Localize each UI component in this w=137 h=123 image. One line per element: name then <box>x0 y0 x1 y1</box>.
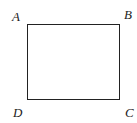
vertex-label-d: D <box>13 106 22 119</box>
vertex-label-b: B <box>124 8 132 21</box>
rectangle-abcd <box>27 24 120 100</box>
vertex-label-c: C <box>125 106 134 119</box>
vertex-label-a: A <box>12 10 20 23</box>
